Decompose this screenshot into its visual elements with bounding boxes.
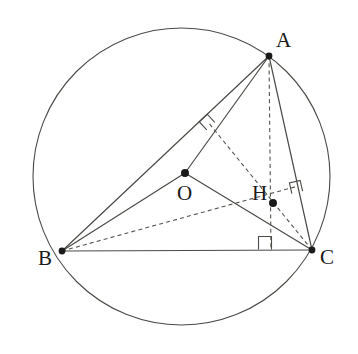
geometry-figure: A B C O H (0, 0, 358, 354)
radius-ob (62, 173, 185, 251)
right-angle-on-ca (289, 180, 302, 193)
point-label-b: B (38, 248, 52, 269)
point-label-h: H (252, 183, 267, 204)
side-bc (62, 250, 312, 251)
radius-oa (185, 56, 269, 173)
point-h-dot (269, 199, 277, 207)
right-angle-on-ab (199, 114, 215, 130)
vertex-dots-group (59, 53, 316, 255)
solid-segments-group (62, 56, 312, 251)
point-o-dot (181, 169, 189, 177)
point-c-dot (309, 247, 316, 254)
point-label-c: C (320, 247, 334, 268)
right-angle-marks-group (199, 114, 302, 249)
point-label-a: A (276, 30, 291, 51)
altitude-from-a (269, 56, 271, 251)
geometry-canvas (0, 0, 358, 354)
point-b-dot (59, 248, 66, 255)
side-ab (62, 56, 269, 251)
point-a-dot (266, 53, 273, 60)
dashed-segments-group (62, 56, 312, 251)
right-angle-on-bc (259, 237, 272, 250)
side-ca (269, 56, 312, 250)
circumcircle (33, 28, 330, 325)
point-label-o: O (177, 183, 192, 204)
